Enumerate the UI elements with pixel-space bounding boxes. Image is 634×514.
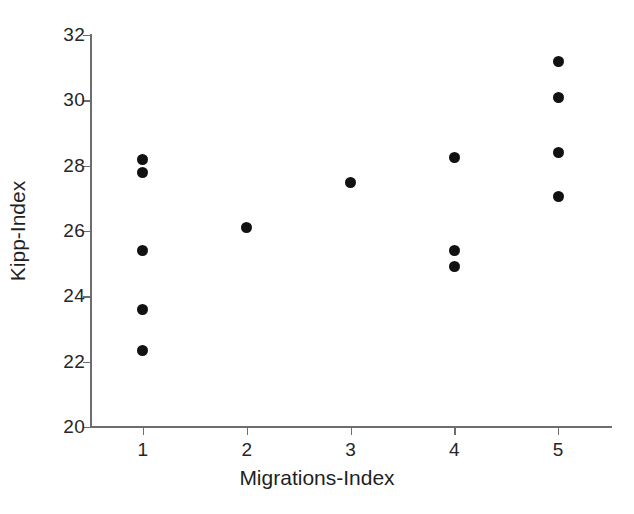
x-tick-mark [247,427,248,435]
data-point [137,167,148,178]
x-tick-mark [351,427,352,435]
scatter-plot-figure: 20222426283032 12345 Kipp-Index Migratio… [0,0,634,514]
x-tick-label: 4 [449,439,460,461]
x-tick-mark [558,427,559,435]
x-tick-mark [143,427,144,435]
data-point [553,56,564,67]
x-axis-title: Migrations-Index [0,466,634,490]
x-tick-label: 5 [553,439,564,461]
y-axis-title: Kipp-Index [6,181,30,281]
data-point [137,245,148,256]
y-tick-label: 32 [63,24,85,46]
x-tick-label: 1 [138,439,149,461]
y-tick-label: 28 [63,155,85,177]
y-tick-label: 30 [63,89,85,111]
data-point [449,261,460,272]
data-point [449,152,460,163]
y-tick-label: 24 [63,285,85,307]
data-point [553,92,564,103]
data-point [241,222,252,233]
data-point [137,154,148,165]
data-point [553,147,564,158]
data-point [449,245,460,256]
plot-area: 20222426283032 12345 [91,35,610,427]
data-point [553,191,564,202]
x-tick-label: 3 [345,439,356,461]
y-tick-label: 20 [63,416,85,438]
data-point [137,345,148,356]
data-point [137,304,148,315]
x-tick-mark [454,427,455,435]
y-tick-label: 26 [63,220,85,242]
data-point [345,177,356,188]
y-tick-label: 22 [63,351,85,373]
x-tick-label: 2 [241,439,252,461]
